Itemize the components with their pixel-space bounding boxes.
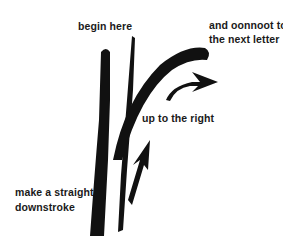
arrow-right-curved-icon <box>166 72 218 101</box>
label-straight-line1: make a straight <box>15 186 94 199</box>
label-straight-line2: downstroke <box>15 201 75 214</box>
label-connect-line1: and oonnoot to <box>209 19 283 32</box>
downstroke-icon <box>90 49 110 236</box>
label-up-to-right: up to the right <box>142 112 214 125</box>
label-begin-here: begin here <box>78 20 132 33</box>
arrow-up-right-icon <box>128 140 150 205</box>
label-connect-line2: the next letter <box>209 33 279 46</box>
stroke-diagram: begin here and oonnoot to the next lette… <box>0 0 283 247</box>
